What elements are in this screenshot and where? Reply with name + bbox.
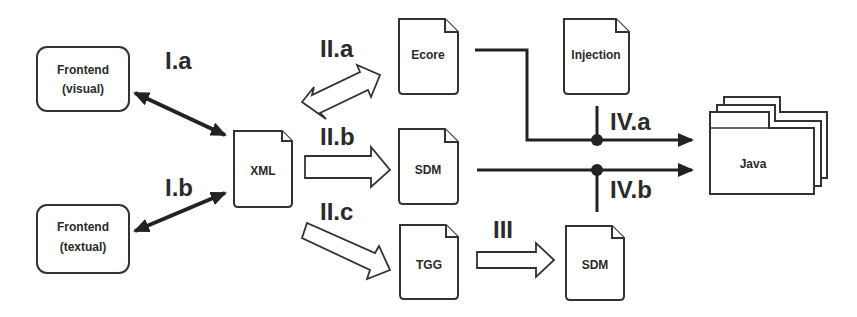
sdm-top-document-node: SDM: [399, 129, 458, 204]
frontend-visual-line2: (visual): [62, 82, 104, 96]
frontend-visual-node: Frontend (visual): [37, 47, 129, 111]
edge-ia-label: I.a: [165, 47, 192, 74]
tgg-label: TGG: [416, 258, 442, 272]
edge-ib: I.b: [135, 174, 225, 231]
edge-ivb-label: IV.b: [610, 176, 652, 203]
edge-iic: II.c: [302, 198, 390, 279]
injection-document-node: Injection: [564, 19, 629, 94]
edge-iva-label: IV.a: [610, 108, 651, 135]
sdm-top-label: SDM: [415, 163, 442, 177]
edge-iic-label: II.c: [320, 198, 353, 225]
edge-iii-label: III: [493, 216, 513, 243]
frontend-textual-line1: Frontend: [57, 220, 109, 234]
xml-document-node: XML: [234, 131, 292, 207]
ecore-label: Ecore: [411, 48, 445, 62]
edge-ia: I.a: [135, 47, 225, 135]
frontend-textual-node: Frontend (textual): [37, 205, 129, 273]
java-folder-node: Java: [710, 97, 827, 194]
architecture-diagram: Frontend (visual) Frontend (textual) XML…: [0, 0, 857, 317]
edge-iib-label: II.b: [320, 123, 355, 150]
edge-ib-label: I.b: [165, 174, 193, 201]
sdm-bottom-document-node: SDM: [566, 226, 624, 300]
tgg-document-node: TGG: [400, 225, 458, 299]
sdm-bottom-label: SDM: [582, 258, 609, 272]
ecore-document-node: Ecore: [399, 19, 458, 94]
edge-iii: III: [477, 216, 554, 277]
xml-label: XML: [250, 164, 275, 178]
java-label: Java: [740, 157, 767, 171]
edge-iia-label: II.a: [320, 35, 354, 62]
frontend-textual-line2: (textual): [60, 240, 107, 254]
injection-label: Injection: [571, 48, 620, 62]
frontend-visual-line1: Frontend: [57, 63, 109, 77]
edge-iib: II.b: [305, 123, 390, 187]
edge-ivb: IV.b: [477, 164, 692, 212]
edge-iia: II.a: [302, 35, 380, 119]
